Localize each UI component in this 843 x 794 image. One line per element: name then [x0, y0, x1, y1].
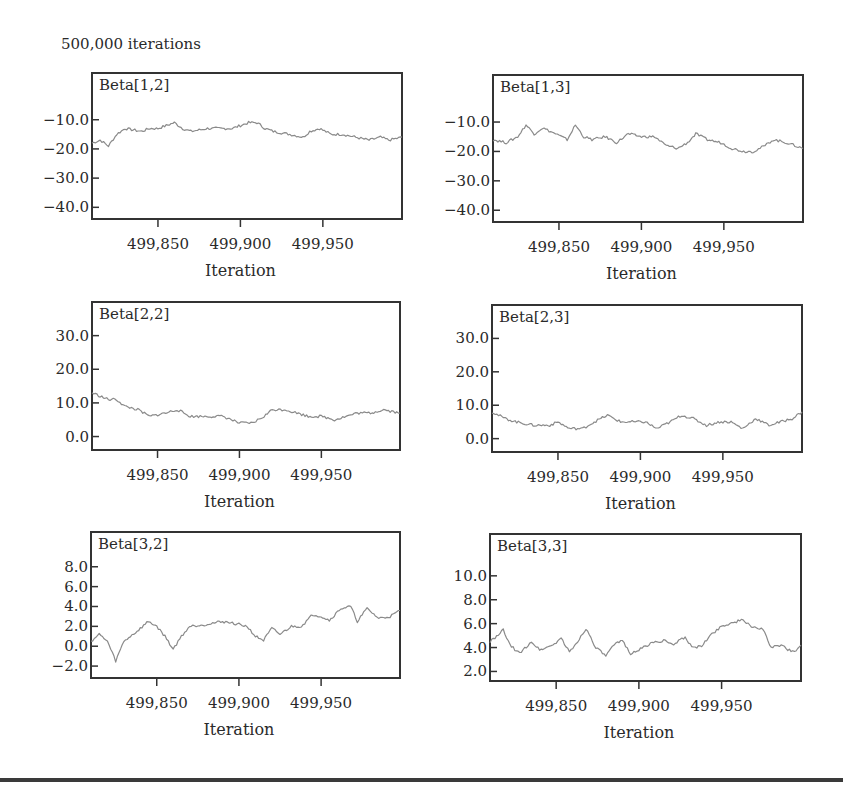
x-tick-label: 499,950	[290, 694, 352, 712]
bottom-rule-divider	[0, 778, 843, 782]
plot-frame	[492, 305, 802, 452]
y-tick-label: −40.0	[43, 198, 89, 216]
y-tick-label: −10.0	[43, 111, 89, 129]
y-tick-label: −20.0	[444, 142, 490, 160]
x-tick-label: 499,850	[527, 468, 589, 486]
trace-plot-area: 10.08.06.04.02.0499,850499,900499,950	[490, 534, 801, 681]
trace-panel-beta-3-3: 10.08.06.04.02.0499,850499,900499,950Bet…	[490, 534, 801, 681]
x-tick-label: 499,850	[127, 466, 189, 484]
x-tick-label: 499,900	[609, 468, 671, 486]
y-tick-label: −30.0	[444, 172, 490, 190]
x-tick-label: 499,900	[209, 235, 271, 253]
y-tick-label: 0.0	[64, 637, 88, 655]
x-tick-label: 499,950	[691, 697, 753, 715]
panel-parameter-label: Beta[2,3]	[499, 308, 569, 326]
x-axis-title: Iteration	[179, 492, 299, 511]
y-tick-label: 30.0	[56, 327, 89, 345]
x-axis-title: Iteration	[581, 264, 701, 283]
y-tick-label: 10.0	[456, 396, 489, 414]
x-tick-label: 499,850	[127, 235, 189, 253]
trace-panel-beta-3-2: 8.06.04.02.00.0−2.0499,850499,900499,950…	[91, 532, 400, 678]
x-axis-title: Iteration	[179, 720, 299, 739]
y-tick-label: −2.0	[52, 657, 88, 675]
x-tick-label: 499,950	[693, 238, 755, 256]
y-tick-label: −20.0	[43, 140, 89, 158]
y-tick-label: 10.0	[454, 567, 487, 585]
y-tick-label: −10.0	[444, 113, 490, 131]
trace-plot-area: 30.020.010.00.0499,850499,900499,950	[92, 302, 400, 450]
y-tick-label: 8.0	[64, 558, 88, 576]
x-tick-label: 499,900	[208, 694, 270, 712]
trace-plot-area: −10.0−20.0−30.0−40.0499,850499,900499,95…	[493, 75, 803, 222]
y-tick-label: 0.0	[65, 428, 89, 446]
x-tick-label: 499,850	[528, 238, 590, 256]
y-tick-label: −40.0	[444, 201, 490, 219]
y-tick-label: 2.0	[64, 617, 88, 635]
y-tick-label: 10.0	[56, 394, 89, 412]
plot-frame	[490, 534, 801, 681]
x-tick-label: 499,900	[610, 238, 672, 256]
x-axis-title: Iteration	[579, 723, 699, 742]
y-tick-label: 30.0	[456, 329, 489, 347]
trace-plot-area: 8.06.04.02.00.0−2.0499,850499,900499,950	[91, 532, 400, 678]
trace-panel-beta-1-2: −10.0−20.0−30.0−40.0499,850499,900499,95…	[92, 73, 402, 219]
panel-parameter-label: Beta[1,2]	[99, 76, 169, 94]
x-tick-label: 499,950	[692, 468, 754, 486]
panel-parameter-label: Beta[3,2]	[98, 535, 168, 553]
y-tick-label: 0.0	[465, 430, 489, 448]
x-tick-label: 499,900	[608, 697, 670, 715]
y-tick-label: −30.0	[43, 169, 89, 187]
plot-frame	[92, 302, 400, 450]
plot-frame	[92, 73, 402, 219]
plot-frame	[91, 532, 400, 678]
trace-plot-area: 30.020.010.00.0499,850499,900499,950	[492, 305, 802, 452]
x-tick-label: 499,950	[290, 466, 352, 484]
trace-panel-beta-1-3: −10.0−20.0−30.0−40.0499,850499,900499,95…	[493, 75, 803, 222]
y-tick-label: 2.0	[463, 662, 487, 680]
y-tick-label: 6.0	[463, 615, 487, 633]
figure-title: 500,000 iterations	[61, 35, 201, 53]
panel-parameter-label: Beta[2,2]	[99, 305, 169, 323]
trace-plot-area: −10.0−20.0−30.0−40.0499,850499,900499,95…	[92, 73, 402, 219]
y-tick-label: 8.0	[463, 591, 487, 609]
y-tick-label: 4.0	[64, 597, 88, 615]
panel-parameter-label: Beta[3,3]	[497, 537, 567, 555]
trace-panel-beta-2-3: 30.020.010.00.0499,850499,900499,950Beta…	[492, 305, 802, 452]
x-tick-label: 499,850	[126, 694, 188, 712]
y-tick-label: 20.0	[456, 363, 489, 381]
y-tick-label: 20.0	[56, 360, 89, 378]
plot-frame	[493, 75, 803, 222]
x-tick-label: 499,950	[292, 235, 354, 253]
x-axis-title: Iteration	[180, 261, 300, 280]
y-tick-label: 6.0	[64, 578, 88, 596]
x-axis-title: Iteration	[580, 494, 700, 513]
trace-panel-beta-2-2: 30.020.010.00.0499,850499,900499,950Beta…	[92, 302, 400, 450]
x-tick-label: 499,850	[525, 697, 587, 715]
panel-parameter-label: Beta[1,3]	[500, 78, 570, 96]
x-tick-label: 499,900	[208, 466, 270, 484]
y-tick-label: 4.0	[463, 639, 487, 657]
